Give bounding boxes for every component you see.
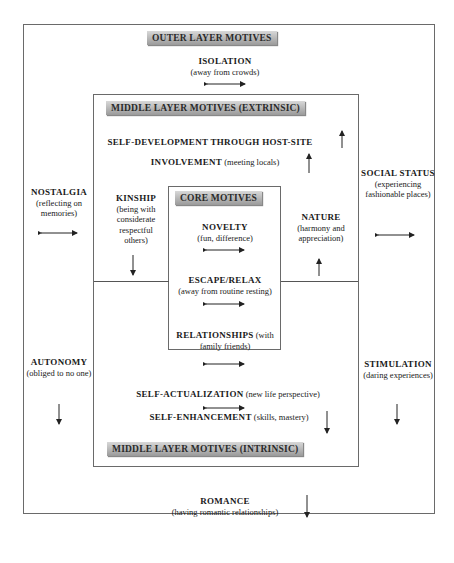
autonomy-motive: AUTONOMY (obliged to no one) [26, 357, 92, 378]
romance-title: ROMANCE [200, 496, 250, 506]
double-arrow-icon [203, 404, 247, 412]
nostalgia-motive: NOSTALGIA (reflecting on memories) [26, 187, 92, 219]
outer-layer-header: OUTER LAYER MOTIVES [147, 31, 277, 45]
novelty-motive: NOVELTY (fun, difference) [170, 222, 280, 243]
isolation-motive: ISOLATION (away from crowds) [170, 56, 280, 77]
social-status-title: SOCIAL STATUS [361, 168, 435, 178]
stimulation-title: STIMULATION [364, 359, 432, 369]
involvement-motive: INVOLVEMENT (meeting locals) [130, 157, 300, 168]
down-arrow-icon [303, 494, 311, 520]
double-arrow-icon [375, 231, 417, 239]
nostalgia-title: NOSTALGIA [31, 187, 87, 197]
core-motives-header: CORE MOTIVES [175, 191, 262, 205]
core-box [168, 186, 281, 350]
down-arrow-icon [323, 410, 331, 436]
self-enhancement-title: SELF-ENHANCEMENT [149, 412, 251, 422]
relationships-motive: RELATIONSHIPS (with family friends) [172, 330, 278, 351]
romance-motive: ROMANCE (having romantic relationships) [160, 496, 290, 517]
self-enhancement-desc: (skills, mastery) [254, 412, 309, 422]
isolation-desc: (away from crowds) [191, 67, 260, 77]
extrinsic-intrinsic-divider-left [94, 281, 169, 282]
down-arrow-icon [129, 254, 137, 278]
novelty-title: NOVELTY [202, 222, 248, 232]
up-arrow-icon [338, 128, 346, 150]
escape-relax-desc: (away from routine resting) [178, 286, 272, 296]
down-arrow-icon [393, 403, 401, 427]
self-actualization-motive: SELF-ACTUALIZATION (new life perspective… [108, 389, 348, 400]
autonomy-desc: (obliged to no one) [27, 368, 92, 378]
self-development-motive: SELF-DEVELOPMENT THROUGH HOST-SITE [100, 137, 320, 148]
stimulation-motive: STIMULATION (daring experiences) [360, 359, 436, 380]
isolation-title: ISOLATION [198, 56, 251, 66]
involvement-desc: (meeting locals) [224, 157, 279, 167]
down-arrow-icon [55, 403, 63, 427]
escape-relax-title: ESCAPE/RELAX [188, 275, 261, 285]
nature-motive: NATURE (harmony and appreciation) [284, 212, 358, 244]
stimulation-desc: (daring experiences) [363, 370, 433, 380]
double-arrow-icon [38, 229, 80, 237]
extrinsic-intrinsic-divider-right [281, 281, 358, 282]
double-arrow-icon [204, 80, 248, 88]
up-arrow-icon [305, 151, 313, 175]
social-status-desc: (experiencing fashionable places) [365, 179, 430, 200]
involvement-title: INVOLVEMENT [151, 157, 222, 167]
kinship-desc: (being with considerate respectful other… [117, 204, 156, 246]
escape-relax-motive: ESCAPE/RELAX (away from routine resting) [170, 275, 280, 296]
kinship-title: KINSHIP [116, 193, 156, 203]
middle-intrinsic-header: MIDDLE LAYER MOTIVES (INTRINSIC) [107, 442, 303, 456]
relationships-title: RELATIONSHIPS [176, 330, 253, 340]
social-status-motive: SOCIAL STATUS (experiencing fashionable … [360, 168, 436, 200]
self-development-title: SELF-DEVELOPMENT THROUGH HOST-SITE [107, 137, 312, 147]
nature-title: NATURE [301, 212, 340, 222]
nostalgia-desc: (reflecting on memories) [36, 198, 82, 219]
autonomy-title: AUTONOMY [31, 357, 88, 367]
double-arrow-icon [203, 246, 247, 254]
up-arrow-icon [315, 256, 323, 278]
romance-desc: (having romantic relationships) [172, 507, 279, 517]
double-arrow-icon [203, 300, 247, 308]
self-actualization-title: SELF-ACTUALIZATION [136, 389, 243, 399]
novelty-desc: (fun, difference) [197, 233, 253, 243]
double-arrow-icon [203, 360, 247, 368]
self-enhancement-motive: SELF-ENHANCEMENT (skills, mastery) [118, 412, 340, 423]
self-actualization-desc: (new life perspective) [246, 389, 320, 399]
nature-desc: (harmony and appreciation) [297, 223, 344, 244]
kinship-motive: KINSHIP (being with considerate respectf… [108, 193, 164, 246]
middle-extrinsic-header: MIDDLE LAYER MOTIVES (EXTRINSIC) [106, 101, 305, 115]
